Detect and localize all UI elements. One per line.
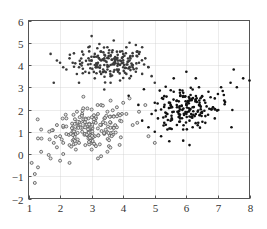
data-point [135,62,138,65]
data-point [188,119,191,122]
data-point [201,120,204,123]
data-point [132,64,135,67]
data-point [65,125,68,128]
data-point [221,90,224,93]
data-point [175,100,178,103]
data-point [163,103,166,106]
data-point [153,130,156,133]
data-point [185,121,188,124]
data-point [77,126,80,129]
data-point [108,49,111,52]
data-point [147,66,150,69]
data-point [196,124,199,127]
data-point [55,124,58,127]
x-tick-label: 7 [216,202,222,214]
data-point [144,104,147,107]
data-point [192,97,195,100]
data-point [131,52,134,55]
data-point [101,104,104,107]
y-tick-label: 6 [18,16,24,28]
data-point [124,67,127,70]
data-point [194,122,197,125]
y-tick-label: 1 [18,127,24,139]
data-point [89,67,92,70]
data-point [195,77,198,80]
data-point [70,145,73,148]
data-point [176,106,179,109]
data-point [30,161,33,164]
data-point [108,139,111,142]
data-point [79,63,82,66]
x-tick-label: 1 [27,202,33,214]
data-point [62,124,65,127]
data-point [180,104,183,107]
data-point [109,126,112,129]
data-point [78,116,81,119]
data-point [209,96,212,99]
data-point [111,109,114,112]
data-point [93,55,96,58]
data-point [143,63,146,66]
data-point [88,123,91,126]
data-point [52,141,55,144]
data-point [82,95,85,98]
data-point [188,96,191,99]
data-point [188,107,191,110]
data-point [181,89,184,92]
data-point [90,55,93,58]
data-point [232,68,235,71]
x-tick-label: 8 [248,202,254,214]
data-point [135,70,138,73]
data-point [56,59,59,62]
data-point [165,95,168,98]
data-point [216,109,219,112]
data-point [168,107,171,110]
data-point [204,122,207,125]
data-point [94,53,97,56]
data-point [62,66,65,69]
data-point [70,127,73,130]
data-point [95,64,98,67]
data-point [54,135,57,138]
data-point [181,109,184,112]
data-point [85,133,88,136]
data-point [189,99,192,102]
y-tick-label: 5 [18,38,24,50]
data-point [194,100,197,103]
data-point [207,113,210,116]
data-point [81,72,84,75]
data-point [117,68,120,71]
data-point [138,110,141,113]
data-point [248,79,251,82]
data-point [91,123,94,126]
data-point [80,57,83,60]
data-point [115,115,118,118]
data-point [160,135,163,138]
data-point [36,118,39,121]
data-point [122,101,125,104]
data-point [242,77,245,80]
data-point [85,60,88,63]
data-point [125,112,128,115]
y-tick-label: 4 [18,60,24,72]
x-tick-label: 4 [121,202,127,214]
data-point [95,62,98,65]
data-point [172,77,175,80]
data-point [107,52,110,55]
data-point [40,150,43,153]
data-point [89,63,92,66]
data-point [171,111,174,114]
data-point [119,136,122,139]
data-point [73,139,76,142]
data-point [186,128,189,131]
data-point [113,69,116,72]
data-point [163,106,166,109]
data-point [109,70,112,73]
data-point [103,75,106,78]
data-point [62,153,65,156]
data-point [52,82,55,85]
data-point [182,92,185,95]
data-point [153,141,156,144]
x-tick-label: 2 [58,202,64,214]
data-point [185,112,188,115]
